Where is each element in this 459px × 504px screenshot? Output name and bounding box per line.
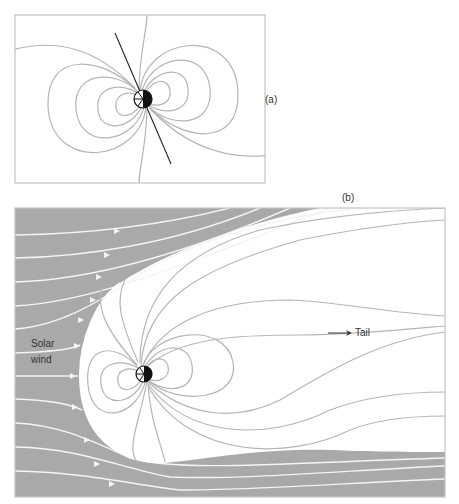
earth-icon-b — [136, 366, 152, 382]
panel-b-magnetosphere — [15, 208, 445, 497]
solar-wind-label-line2: wind — [31, 354, 52, 366]
panel-a-label: (a) — [265, 94, 277, 106]
solar-wind-label-line1: Solar — [31, 338, 54, 350]
panel-b-label: (b) — [342, 192, 354, 204]
tail-label: Tail — [355, 327, 370, 339]
earth-icon-a — [134, 90, 152, 108]
magnetosphere-figure — [0, 0, 459, 504]
